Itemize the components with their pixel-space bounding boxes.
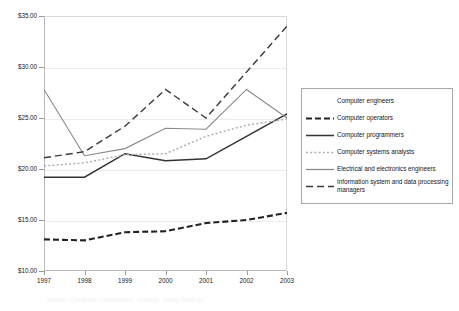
x-axis-tick-label: 1998: [67, 277, 103, 284]
legend-item-label: Electrical and electronics engineers: [337, 165, 436, 173]
series-line: [44, 213, 287, 241]
legend-item[interactable]: Electrical and electronics engineers: [302, 161, 452, 177]
x-axis-tick: [85, 271, 86, 275]
x-axis-tick-label: 2001: [188, 277, 224, 284]
x-axis-tick-label: 2000: [148, 277, 184, 284]
y-axis-tick-label: $15.00: [0, 216, 37, 223]
x-axis-tick-label: 1999: [107, 277, 143, 284]
x-axis-tick-label: 2002: [229, 277, 265, 284]
x-axis-tick-label: 1997: [26, 277, 62, 284]
legend-swatch-icon: [306, 96, 334, 107]
legend-item[interactable]: Computer programmers: [302, 127, 452, 143]
legend-swatch-icon: [306, 164, 334, 175]
legend-item[interactable]: Computer systems analysts: [302, 144, 452, 160]
chart-caption: Source: Computer Occupations, average ho…: [46, 296, 286, 308]
legend-swatch-icon: [306, 113, 334, 124]
legend: Computer engineersComputer operatorsComp…: [301, 88, 453, 204]
x-axis-tick-label: 2003: [269, 277, 305, 284]
legend-item-label: Computer programmers: [337, 131, 404, 139]
legend-swatch-icon: [306, 130, 334, 141]
y-axis-tick-label: $25.00: [0, 114, 37, 121]
x-axis-tick: [287, 271, 288, 275]
x-axis-tick: [125, 271, 126, 275]
y-axis-tick-label: $20.00: [0, 165, 37, 172]
legend-item-label: Computer operators: [337, 114, 393, 122]
x-axis-tick: [44, 271, 45, 275]
series-line: [44, 89, 287, 155]
legend-item[interactable]: Information system and data processing m…: [302, 178, 452, 194]
x-axis-tick: [206, 271, 207, 275]
y-axis-tick-label: $10.00: [0, 267, 37, 274]
data-series-layer: [44, 16, 287, 271]
line-chart: $10.00$15.00$20.00$25.00$30.00$35.00 199…: [0, 0, 459, 311]
legend-item[interactable]: Computer engineers: [302, 93, 452, 109]
legend-item-label: Computer engineers: [337, 97, 394, 105]
legend-item[interactable]: Computer operators: [302, 110, 452, 126]
y-axis-tick-label: $35.00: [0, 12, 37, 19]
legend-item-label: Computer systems analysts: [337, 148, 414, 156]
legend-swatch-icon: [306, 147, 334, 158]
legend-swatch-icon: [306, 181, 334, 192]
series-line: [44, 119, 287, 166]
series-line: [44, 114, 287, 177]
legend-item-label: Information system and data processing m…: [337, 178, 448, 194]
y-axis-tick-label: $30.00: [0, 63, 37, 70]
x-axis-tick: [166, 271, 167, 275]
x-axis-tick: [247, 271, 248, 275]
